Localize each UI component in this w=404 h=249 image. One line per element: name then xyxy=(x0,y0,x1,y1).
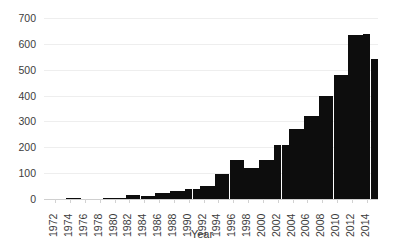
plot-area xyxy=(44,18,378,199)
y-axis-tick-label: 400 xyxy=(18,90,36,101)
y-axis-tick-label: 200 xyxy=(18,142,36,153)
bar xyxy=(371,59,378,199)
bar xyxy=(356,35,363,199)
bar xyxy=(170,191,177,199)
bar xyxy=(178,191,185,199)
bar xyxy=(207,186,214,199)
y-axis-tick-label: 700 xyxy=(18,13,36,24)
bar xyxy=(296,129,303,199)
bar xyxy=(215,174,222,199)
bar xyxy=(267,160,274,199)
bar xyxy=(348,35,355,199)
y-axis-tick-label: 0 xyxy=(30,194,36,205)
bar xyxy=(259,160,266,199)
bar xyxy=(244,168,251,199)
bar xyxy=(252,168,259,199)
bar-series xyxy=(44,18,378,199)
y-axis-tick-label: 500 xyxy=(18,64,36,75)
bar xyxy=(200,186,207,199)
bar xyxy=(193,189,200,199)
bar xyxy=(230,160,237,199)
bar xyxy=(237,160,244,199)
bar xyxy=(282,145,289,199)
x-axis-title: Year xyxy=(0,228,404,240)
bar xyxy=(319,96,326,199)
bar-chart: 0100200300400500600700 19721974197619781… xyxy=(0,0,404,249)
bar xyxy=(311,116,318,199)
bar xyxy=(304,116,311,199)
bar xyxy=(274,145,281,199)
bar xyxy=(334,75,341,199)
bar xyxy=(363,34,370,199)
y-axis-tick-label: 100 xyxy=(18,168,36,179)
y-axis-labels: 0100200300400500600700 xyxy=(0,18,40,199)
bar xyxy=(185,189,192,199)
bar xyxy=(289,129,296,199)
bar xyxy=(326,96,333,199)
bar xyxy=(341,75,348,199)
y-axis-tick-label: 600 xyxy=(18,39,36,50)
y-axis-tick-label: 300 xyxy=(18,116,36,127)
bar xyxy=(222,174,229,199)
